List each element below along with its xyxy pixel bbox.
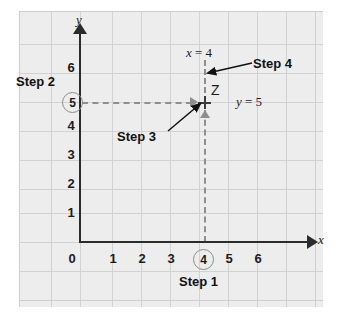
x-tick-1: 1	[104, 251, 122, 266]
callout-step-3: Step 3	[117, 129, 156, 144]
equation-x-label: x = 4	[186, 45, 212, 61]
x-axis-arrowhead	[307, 235, 318, 249]
point-marker-vertical	[204, 96, 206, 109]
callout-step-1: Step 1	[179, 274, 218, 289]
x-tick-6: 6	[249, 251, 267, 266]
grid-hline	[19, 300, 323, 301]
y-tick-3: 3	[62, 147, 80, 162]
grid-vline	[19, 11, 20, 307]
y-tick-6: 6	[62, 60, 80, 75]
point-z-marker	[198, 96, 211, 109]
point-z-label: Z	[211, 82, 220, 98]
callout-step-2: Step 2	[16, 74, 55, 89]
coordinate-grid-figure: x y 0 1 2 3 5 6 6 4 3 2 1 5 4 Z x = 4 y …	[0, 0, 339, 324]
x-axis-line	[80, 241, 312, 243]
y-tick-2: 2	[62, 176, 80, 191]
circled-y-value: 5	[62, 92, 83, 113]
x-tick-5: 5	[220, 251, 238, 266]
grid-vline	[315, 11, 316, 307]
dashed-line-y5	[82, 102, 192, 104]
grid-hline	[19, 44, 323, 45]
equation-y-label: y = 5	[236, 94, 262, 110]
circled-x-value: 4	[193, 249, 214, 270]
grid-vline	[51, 11, 52, 307]
y-tick-4: 4	[62, 118, 80, 133]
dashed-line-x4	[204, 110, 206, 242]
x-tick-0: 0	[63, 251, 81, 266]
x-tick-2: 2	[133, 251, 151, 266]
x-axis-label: x	[318, 232, 324, 248]
dashed-arrow-right	[190, 97, 198, 107]
callout-step-4: Step 4	[253, 56, 292, 71]
x-tick-3: 3	[162, 251, 180, 266]
dashed-arrow-up	[200, 110, 210, 118]
grid-hline	[19, 271, 323, 272]
grid-hline	[19, 11, 323, 12]
y-tick-1: 1	[62, 205, 80, 220]
y-axis-label: y	[76, 12, 82, 28]
